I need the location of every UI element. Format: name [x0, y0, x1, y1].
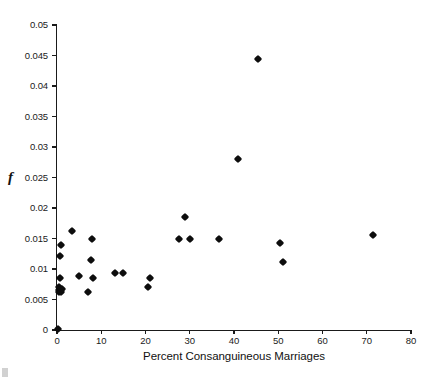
y-axis-tick-label: 0: [0, 325, 48, 335]
y-axis-tick: [52, 268, 56, 269]
data-point: [214, 235, 222, 243]
x-axis-tick: [233, 330, 234, 334]
data-point: [234, 154, 242, 162]
data-point: [186, 234, 194, 242]
x-axis-tick: [189, 330, 190, 334]
y-axis-tick-label: 0.02: [0, 203, 48, 213]
data-point: [254, 54, 262, 62]
x-axis-tick-label: 80: [391, 336, 431, 346]
data-point: [56, 240, 64, 248]
x-axis-tick-label: 60: [303, 336, 343, 346]
data-point: [54, 325, 62, 333]
y-axis-tick-label: 0.05: [0, 20, 48, 30]
x-axis-tick-label: 20: [126, 336, 166, 346]
x-axis-tick: [278, 330, 279, 334]
data-point: [146, 273, 154, 281]
x-axis-tick-label: 0: [37, 336, 77, 346]
data-point: [89, 273, 97, 281]
y-axis-tick-label: 0.04: [0, 81, 48, 91]
y-axis-tick: [52, 116, 56, 117]
data-point: [369, 231, 377, 239]
x-axis-tick: [322, 330, 323, 334]
x-axis-tick-label: 10: [81, 336, 121, 346]
y-axis-tick: [52, 146, 56, 147]
plot-area: [57, 25, 411, 330]
x-axis-tick: [145, 330, 146, 334]
y-axis-tick-label: 0.005: [0, 295, 48, 305]
x-axis-tick: [101, 330, 102, 334]
data-point: [276, 239, 284, 247]
y-axis-tick: [52, 85, 56, 86]
y-axis-tick-label: 0.01: [0, 264, 48, 274]
data-point: [143, 282, 151, 290]
data-point: [88, 234, 96, 242]
y-axis-tick-label: 0.03: [0, 142, 48, 152]
y-axis-tick: [52, 207, 56, 208]
data-point: [181, 213, 189, 221]
data-point: [68, 226, 76, 234]
x-axis-tick-label: 30: [170, 336, 210, 346]
y-axis-tick: [52, 238, 56, 239]
data-point: [56, 251, 64, 259]
y-axis-tick-label: 0.015: [0, 234, 48, 244]
y-axis-tick-label: 0.035: [0, 112, 48, 122]
x-axis-tick-label: 70: [347, 336, 387, 346]
y-axis-tick: [52, 299, 56, 300]
y-axis-tick: [52, 177, 56, 178]
data-point: [278, 257, 286, 265]
scatter-chart: 00.0050.010.0150.020.0250.030.0350.040.0…: [0, 0, 431, 383]
y-axis-tick-label: 0.045: [0, 51, 48, 61]
y-axis-title: f: [8, 169, 13, 186]
x-axis-tick-label: 50: [258, 336, 298, 346]
data-point: [86, 256, 94, 264]
x-axis-tick: [366, 330, 367, 334]
y-axis-tick: [52, 24, 56, 25]
data-point: [75, 272, 83, 280]
x-axis-tick: [410, 330, 411, 334]
data-point: [174, 234, 182, 242]
data-point: [110, 268, 118, 276]
x-axis-title: Percent Consanguineous Marriages: [57, 350, 411, 362]
scan-artifact: [2, 368, 8, 377]
data-point: [84, 288, 92, 296]
data-point: [119, 268, 127, 276]
data-point: [55, 273, 63, 281]
y-axis-tick: [52, 55, 56, 56]
x-axis-tick-label: 40: [214, 336, 254, 346]
